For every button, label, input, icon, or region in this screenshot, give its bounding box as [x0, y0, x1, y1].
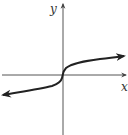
x-axis-label: x — [121, 81, 128, 93]
function-graph — [0, 0, 128, 135]
y-axis-label: y — [50, 3, 57, 15]
